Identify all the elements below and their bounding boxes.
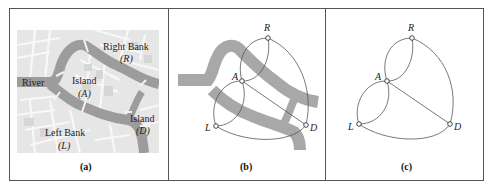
caption-a: (a) — [80, 161, 92, 173]
caption-b: (b) — [240, 161, 252, 173]
edge-l-d — [359, 124, 450, 139]
label-island-d: Island — [130, 113, 154, 124]
edge-a-r-1 — [385, 38, 412, 81]
node-label-a: A — [374, 71, 382, 82]
edge-a-l-2 — [359, 81, 389, 124]
node-label-l: L — [204, 122, 211, 133]
edge-a-d — [387, 81, 450, 124]
panel-c-nodes — [357, 36, 453, 127]
node-label-r: R — [263, 22, 270, 33]
edge-r-d — [412, 38, 453, 124]
label-left-bank: Left Bank — [45, 127, 85, 138]
node-d — [304, 123, 309, 128]
node-r — [410, 36, 415, 41]
node-label-d: D — [453, 121, 462, 132]
caption-c: (c) — [401, 161, 412, 173]
edge-a-r-2 — [387, 38, 413, 81]
label-right-bank: Right Bank — [103, 41, 149, 52]
node-d — [448, 122, 453, 127]
node-label-d: D — [309, 122, 318, 133]
edge-a-l-1 — [357, 81, 387, 124]
node-a — [240, 79, 245, 84]
label-island-a-letter: (A) — [78, 88, 91, 100]
node-r — [266, 36, 271, 41]
node-l — [214, 124, 219, 129]
label-left-bank-letter: (L) — [58, 140, 71, 152]
label-river: River — [22, 77, 45, 88]
figure-canvas: River Island (A) Right Bank (R) Island (… — [0, 0, 491, 187]
label-island-d-letter: (D) — [136, 125, 151, 137]
label-island-a: Island — [72, 75, 96, 86]
node-label-r: R — [407, 22, 414, 33]
node-label-a: A — [231, 71, 239, 82]
label-right-bank-letter: (R) — [120, 53, 133, 65]
node-l — [357, 122, 362, 127]
node-label-l: L — [347, 121, 354, 132]
panel-c-graph — [357, 38, 453, 139]
node-a — [385, 79, 390, 84]
